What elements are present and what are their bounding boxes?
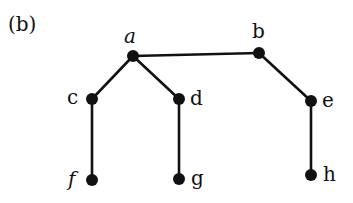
node-f xyxy=(86,174,98,186)
node-c xyxy=(86,93,98,105)
node-label-c: c xyxy=(67,87,78,107)
edge-b-e xyxy=(259,53,311,101)
node-e xyxy=(305,95,317,107)
node-label-d: d xyxy=(190,88,203,108)
node-label-a: a xyxy=(124,26,136,46)
edge-a-b xyxy=(133,53,259,56)
node-label-f: f xyxy=(68,169,75,189)
node-label-e: e xyxy=(322,90,334,110)
node-label-b: b xyxy=(252,21,265,41)
node-g xyxy=(173,173,185,185)
node-a xyxy=(127,50,139,62)
node-b xyxy=(253,47,265,59)
graph-edges-and-nodes xyxy=(0,0,353,203)
node-d xyxy=(173,93,185,105)
node-label-g: g xyxy=(191,168,204,188)
tree-diagram: (b) abcdefgh xyxy=(0,0,353,203)
edge-a-c xyxy=(92,56,133,99)
node-h xyxy=(305,169,317,181)
edge-a-d xyxy=(133,56,179,99)
node-label-h: h xyxy=(323,164,336,184)
